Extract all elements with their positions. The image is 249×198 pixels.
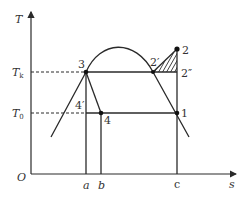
point-4-marker	[99, 111, 104, 116]
point-4-label: 4	[104, 114, 111, 127]
point-2-label: 2	[182, 44, 189, 57]
point-1-label: 1	[181, 107, 188, 120]
point-4prime-label: 4′	[75, 99, 85, 112]
saturation-dome	[51, 47, 189, 137]
x-tick-a: a	[83, 179, 90, 192]
x-tick-c: c	[174, 178, 180, 191]
ts-diagram: T s O Tk T0 3 2′ 2 2″ 4′ 4 1 a b c	[0, 0, 249, 198]
point-2-marker	[174, 46, 179, 51]
t0-label: T0	[12, 107, 24, 121]
origin-label: O	[17, 171, 26, 184]
x-axis-label: s	[229, 178, 235, 191]
ts-diagram-svg: T s O Tk T0 3 2′ 2 2″ 4′ 4 1 a b c	[0, 0, 249, 198]
point-1-marker	[175, 111, 180, 116]
y-axis-label: T	[15, 13, 24, 26]
point-2dprime-label: 2″	[181, 67, 192, 80]
tk-label: Tk	[12, 66, 24, 80]
point-2prime-marker	[151, 70, 155, 74]
point-2prime-label: 2′	[150, 56, 160, 69]
x-tick-b: b	[98, 179, 105, 192]
point-3-label: 3	[78, 58, 85, 71]
throttling-line	[86, 72, 101, 113]
